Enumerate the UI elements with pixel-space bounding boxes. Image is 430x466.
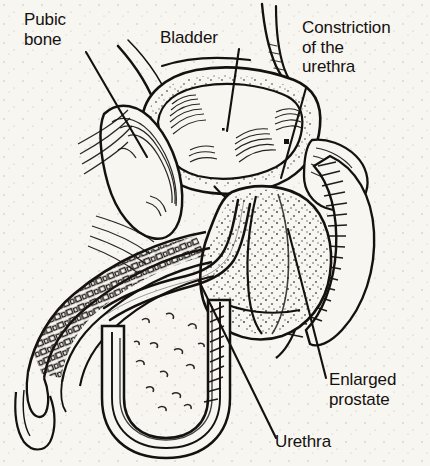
label-pubic-bone: Pubic bone xyxy=(24,10,66,49)
anatomical-figure: Pubic bone Bladder Constriction of the u… xyxy=(0,0,430,466)
label-bladder: Bladder xyxy=(160,28,218,48)
label-constriction-of-the-urethra: Constriction of the urethra xyxy=(302,18,391,77)
label-urethra: Urethra xyxy=(275,432,331,452)
label-enlarged-prostate: Enlarged prostate xyxy=(329,370,396,409)
